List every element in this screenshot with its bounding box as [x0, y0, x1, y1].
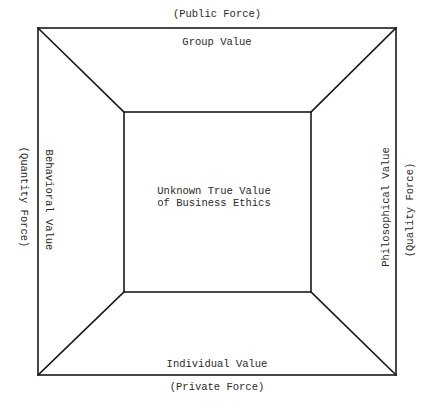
center-title: Unknown True Value of Business Ethics	[157, 185, 270, 209]
diagonal-bottom-left	[38, 292, 124, 375]
diagonal-top-right	[311, 28, 396, 112]
quantity-force-label: (Quantity Force)	[18, 147, 30, 248]
behavioral-value-label: Behavioral Value	[43, 150, 55, 251]
quality-force-label: (Quality Force)	[404, 163, 416, 258]
philosophical-value-label: Philosophical Value	[380, 147, 392, 267]
diagonal-bottom-right	[311, 292, 396, 375]
center-title-line-2: of Business Ethics	[157, 197, 270, 209]
center-title-line-1: Unknown True Value	[157, 185, 270, 197]
diagonal-top-left	[38, 28, 124, 112]
private-force-label: (Private Force)	[170, 381, 265, 393]
group-value-label: Group Value	[182, 36, 251, 48]
public-force-label: (Public Force)	[173, 8, 261, 20]
business-ethics-frame-diagram: (Public Force) Group Value Individual Va…	[0, 0, 432, 408]
individual-value-label: Individual Value	[167, 358, 268, 370]
